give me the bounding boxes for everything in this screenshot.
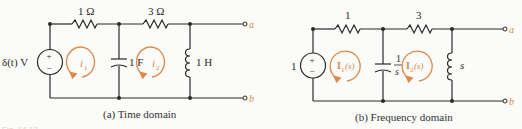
- terminal-b-label-b: b: [509, 96, 514, 107]
- r1-label: 1 Ω: [78, 5, 94, 17]
- source-label-b: 1: [291, 60, 297, 72]
- r2-label-b: 3: [416, 9, 422, 21]
- svg-text:1: 1: [84, 64, 88, 72]
- resistor-1: [335, 25, 360, 33]
- svg-text:−: −: [310, 66, 315, 76]
- caption-b: (b) Frequency domain: [355, 111, 453, 124]
- panel-frequency-domain: 1 3 + − 1 1 s s I 1 (s) I: [291, 9, 514, 124]
- svg-text:(s): (s): [345, 61, 355, 71]
- resistor-3: [407, 25, 432, 33]
- nodes-a: [48, 22, 247, 100]
- wires-a: [50, 24, 243, 98]
- source-label: δ(t) V: [2, 56, 28, 69]
- svg-text:i: i: [80, 57, 83, 69]
- terminal-a-label: a: [249, 19, 254, 30]
- terminal-a-label-b: a: [509, 24, 514, 35]
- inductor-icon-b: [448, 53, 453, 80]
- circuit-figure: 1 Ω 3 Ω + − δ(t) V 1 F 1 H i 1 i 2: [0, 0, 522, 129]
- panel-time-domain: 1 Ω 3 Ω + − δ(t) V 1 F 1 H i 1 i 2: [2, 5, 254, 121]
- voltage-source-icon: + −: [38, 50, 63, 75]
- svg-text:i: i: [152, 57, 155, 69]
- resistor-3ohm: [143, 20, 168, 28]
- inductor-label: 1 H: [196, 56, 212, 68]
- capacitor-icon: [111, 59, 127, 67]
- svg-text:1: 1: [396, 53, 401, 64]
- svg-text:−: −: [47, 63, 52, 73]
- loop-arrow-icon-I1: I 1 (s): [330, 51, 360, 81]
- voltage-source-icon-b: + −: [301, 53, 326, 78]
- r2-label: 3 Ω: [148, 5, 164, 17]
- loop-arrow-icon-i1: i 1: [67, 47, 95, 77]
- svg-text:2: 2: [156, 64, 160, 72]
- svg-text:+: +: [310, 55, 315, 65]
- r1-label-b: 1: [345, 9, 351, 21]
- inductor-icon: [186, 49, 191, 77]
- svg-text:(s): (s): [414, 61, 424, 71]
- svg-text:s: s: [395, 66, 399, 77]
- svg-text:+: +: [47, 51, 52, 61]
- capacitor-icon-b: [375, 64, 391, 72]
- inductor-label-b: s: [460, 59, 464, 71]
- resistor-1ohm: [72, 20, 97, 28]
- caption-a: (a) Time domain: [103, 108, 177, 121]
- figure-caption-partial: Fig. 14.13: [2, 125, 38, 129]
- terminal-b-label: b: [249, 93, 254, 104]
- loop-arrow-icon-I2: I 2 (s): [402, 51, 432, 81]
